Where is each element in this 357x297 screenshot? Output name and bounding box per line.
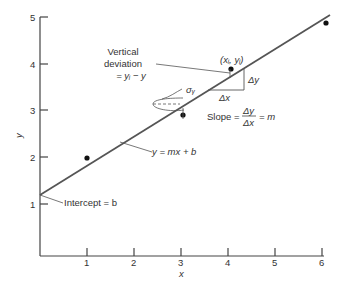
point-label: (xᵢ, yᵢ) (220, 54, 243, 65)
intercept-label: Intercept = b (64, 197, 117, 208)
vertical-deviation-line3: = yᵢ − y (116, 70, 147, 81)
slope-numerator: Δy (242, 105, 255, 116)
slope-suffix: = m (259, 111, 275, 122)
y-tick-3: 3 (30, 105, 35, 116)
line-eq-leader (120, 142, 152, 152)
intercept-leader (40, 195, 63, 203)
y-tick-labels: 5 4 3 2 1 (30, 12, 35, 210)
y-axis-label: y (13, 132, 24, 139)
x-tick-1: 1 (84, 257, 89, 268)
delta-x-label: Δx (218, 92, 231, 103)
data-point (323, 20, 328, 25)
x-tick-2: 2 (131, 257, 136, 268)
fit-line (40, 15, 330, 195)
line-equation: y = mx + b (151, 146, 196, 157)
slope-prefix: Slope = (207, 111, 240, 122)
x-tick-3: 3 (178, 257, 183, 268)
y-tick-5: 5 (30, 12, 35, 23)
vertical-deviation-annotation: Vertical deviation = yᵢ − y (104, 46, 230, 81)
x-tick-labels: 1 2 3 4 5 6 (84, 257, 324, 268)
deviation-leader-line (156, 64, 230, 73)
slope-denominator: Δx (242, 117, 255, 128)
data-point (228, 66, 233, 71)
data-points (84, 20, 328, 160)
y-tick-4: 4 (30, 59, 35, 70)
y-tick-1: 1 (30, 199, 35, 210)
slope-formula: Slope = Δy Δx = m (207, 105, 275, 128)
delta-y-label: Δy (247, 74, 260, 85)
y-tick-2: 2 (30, 152, 35, 163)
data-point (84, 155, 89, 160)
vertical-deviation-line1: Vertical (107, 46, 138, 57)
x-axis-label: x (178, 268, 185, 279)
x-tick-5: 5 (272, 257, 277, 268)
sigma-label: σᵧ (186, 84, 196, 95)
axes (40, 17, 324, 256)
x-tick-6: 6 (319, 257, 324, 268)
regression-diagram: 5 4 3 2 1 1 2 3 4 5 6 x y Vertical devia… (0, 0, 357, 297)
vertical-deviation-line2: deviation (104, 58, 142, 69)
x-tick-4: 4 (225, 257, 230, 268)
